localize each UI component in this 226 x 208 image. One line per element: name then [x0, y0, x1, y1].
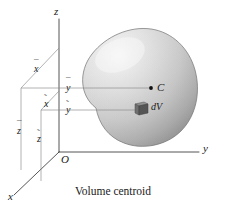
- z-bar-label: z: [17, 126, 21, 136]
- x-tilde-label: x: [44, 99, 48, 109]
- centroid-dot: [149, 86, 153, 90]
- figure-canvas: [0, 0, 226, 208]
- y-bar-label: y: [66, 83, 70, 93]
- figure-caption: Volume centroid: [0, 185, 226, 197]
- x-bar-label: x: [34, 64, 38, 74]
- y-axis-label: y: [203, 143, 208, 154]
- volume-element-cube: [135, 102, 148, 115]
- origin-label: O: [61, 154, 69, 165]
- volume-element-label: dV: [151, 102, 162, 112]
- volume-centroid-figure: z y x O C dV x ¯ y ¯ z ¯ x ˜ y ˜ z ˜ Vol…: [0, 0, 226, 208]
- z-tilde-label: z: [37, 134, 41, 144]
- y-tilde-label: y: [66, 105, 70, 115]
- centroid-label: C: [157, 82, 164, 93]
- volume-blob: [83, 28, 198, 146]
- z-axis-label: z: [54, 6, 58, 17]
